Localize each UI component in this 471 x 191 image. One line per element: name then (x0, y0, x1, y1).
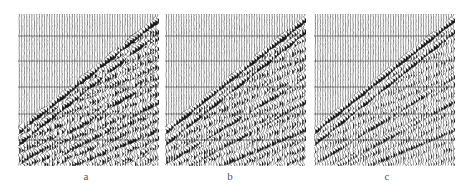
seismic-panel-b (165, 14, 306, 166)
seismic-panel-a (18, 14, 159, 166)
panel-label-b: b (220, 170, 240, 182)
seismic-panel-c (314, 14, 455, 166)
panel-label-c: c (377, 170, 397, 182)
seismic-section-b (165, 14, 306, 166)
seismic-section-a (18, 14, 159, 166)
panel-label-a: a (76, 170, 96, 182)
seismic-section-c (314, 14, 455, 166)
